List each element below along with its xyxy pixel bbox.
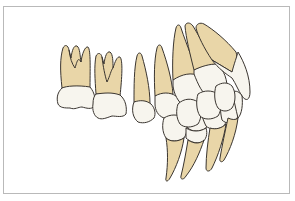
upper-molar-2 [93, 52, 127, 119]
upper-molar-1 [57, 46, 95, 109]
upper-premolar-1 [133, 53, 155, 123]
teeth-illustration [0, 0, 295, 201]
